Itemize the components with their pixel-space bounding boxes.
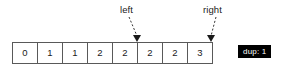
arrow-head-left <box>133 35 141 42</box>
array-cell: 1 <box>37 42 63 64</box>
array-cell: 2 <box>162 42 188 64</box>
array-cell: 3 <box>187 42 213 64</box>
array-visualization: left right 0 1 1 2 2 2 2 3 dup: 1 <box>0 0 282 68</box>
array-cell: 2 <box>137 42 163 64</box>
arrow-head-right <box>207 35 215 42</box>
arrow-line-right <box>211 17 216 36</box>
duplicate-count-badge: dup: 1 <box>238 45 271 58</box>
array-cell: 0 <box>12 42 38 64</box>
array-cells: 0 1 1 2 2 2 2 3 <box>12 42 213 64</box>
array-cell: 1 <box>62 42 88 64</box>
array-cell: 2 <box>87 42 113 64</box>
array-cell: 2 <box>112 42 138 64</box>
arrow-line-left <box>129 17 137 36</box>
